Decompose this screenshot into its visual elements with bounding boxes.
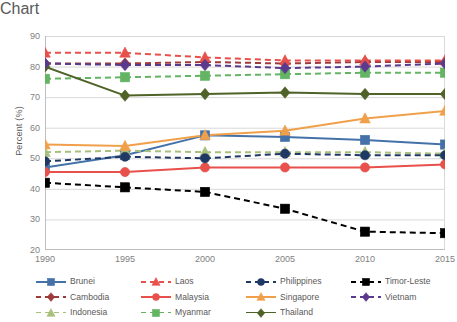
data-point-diamond bbox=[257, 308, 264, 317]
series-line-philippines bbox=[45, 154, 445, 162]
y-tick-label: 80 bbox=[16, 62, 40, 72]
data-point-diamond bbox=[362, 293, 369, 302]
legend-marker-triangle-icon bbox=[45, 307, 57, 319]
series-line-indonesia bbox=[45, 151, 445, 154]
legend-item-myanmar[interactable]: Myanmar bbox=[141, 305, 246, 320]
data-point-triangle bbox=[152, 278, 160, 286]
data-point-square bbox=[45, 178, 50, 187]
data-point-circle bbox=[280, 163, 289, 172]
y-tick-label: 30 bbox=[16, 214, 40, 224]
legend-key-malaysia bbox=[141, 290, 171, 303]
data-point-square bbox=[360, 227, 369, 236]
data-point-square bbox=[45, 74, 50, 83]
legend-label-singapore: Singapore bbox=[280, 293, 319, 302]
data-point-diamond bbox=[120, 59, 130, 71]
data-point-circle bbox=[280, 149, 289, 158]
x-axis-tick-labels: 199019952000200520102015 bbox=[45, 254, 445, 268]
series-line-laos bbox=[45, 53, 445, 61]
data-point-triangle bbox=[257, 293, 265, 301]
data-point-square bbox=[153, 309, 160, 316]
legend-label-malaysia: Malaysia bbox=[175, 293, 209, 302]
data-point-circle bbox=[120, 167, 129, 176]
legend-item-laos[interactable]: Laos bbox=[141, 274, 246, 289]
legend-item-singapore[interactable]: Singapore bbox=[246, 289, 351, 304]
x-tick-label: 1990 bbox=[25, 254, 65, 264]
data-point-square bbox=[48, 279, 55, 286]
legend-marker-triangle-icon bbox=[255, 291, 267, 303]
data-point-circle bbox=[360, 163, 369, 172]
legend-marker-square-icon bbox=[45, 276, 57, 288]
series-line-myanmar bbox=[45, 73, 445, 79]
series-line-timor-leste bbox=[45, 183, 445, 233]
legend-item-indonesia[interactable]: Indonesia bbox=[36, 305, 141, 320]
y-tick-label: 60 bbox=[16, 123, 40, 133]
legend-marker-circle-icon bbox=[255, 276, 267, 288]
legend-marker-diamond-icon bbox=[360, 291, 372, 303]
legend-label-brunei: Brunei bbox=[70, 277, 95, 286]
data-point-triangle bbox=[440, 105, 445, 115]
legend-label-philippines: Philippines bbox=[280, 277, 322, 286]
legend-item-malaysia[interactable]: Malaysia bbox=[141, 289, 246, 304]
data-point-square bbox=[120, 73, 129, 82]
legend-label-vietnam: Vietnam bbox=[385, 293, 416, 302]
data-point-square bbox=[440, 229, 445, 238]
legend-key-indonesia bbox=[36, 306, 66, 319]
legend-label-myanmar: Myanmar bbox=[175, 308, 211, 317]
x-tick-label: 2000 bbox=[185, 254, 225, 264]
chart-legend: BruneiLaosPhilippinesTimor-LesteCambodia… bbox=[36, 274, 450, 320]
series-line-malaysia bbox=[45, 164, 445, 172]
data-point-square bbox=[440, 140, 445, 149]
legend-marker-square-icon bbox=[360, 276, 372, 288]
legend-label-indonesia: Indonesia bbox=[70, 308, 107, 317]
legend-key-myanmar bbox=[141, 306, 171, 319]
legend-item-vietnam[interactable]: Vietnam bbox=[351, 289, 450, 304]
x-tick-label: 2005 bbox=[265, 254, 305, 264]
y-tick-label: 50 bbox=[16, 153, 40, 163]
data-point-square bbox=[363, 279, 370, 286]
legend-marker-diamond-icon bbox=[255, 307, 267, 319]
series-canvas bbox=[45, 36, 445, 250]
data-point-circle bbox=[440, 160, 445, 169]
data-point-circle bbox=[120, 152, 129, 161]
legend-key-philippines bbox=[246, 275, 276, 288]
legend-label-thailand: Thailand bbox=[280, 308, 313, 317]
y-axis-tick-labels: 2030405060708090 bbox=[14, 36, 40, 250]
legend-item-philippines[interactable]: Philippines bbox=[246, 274, 351, 289]
legend-label-cambodia: Cambodia bbox=[70, 293, 109, 302]
legend-key-cambodia bbox=[36, 290, 66, 303]
data-point-square bbox=[360, 135, 369, 144]
legend-marker-circle-icon bbox=[150, 291, 162, 303]
x-tick-label: 1995 bbox=[105, 254, 145, 264]
legend-marker-square-icon bbox=[150, 307, 162, 319]
series-line-thailand bbox=[45, 67, 445, 96]
y-tick-label: 40 bbox=[16, 184, 40, 194]
legend-item-cambodia[interactable]: Cambodia bbox=[36, 289, 141, 304]
data-point-diamond bbox=[280, 87, 290, 99]
chart-container: Percent (%) 2030405060708090 19901995200… bbox=[0, 18, 457, 322]
x-tick-label: 2015 bbox=[425, 254, 457, 264]
data-point-square bbox=[200, 71, 209, 80]
plot-area bbox=[45, 36, 445, 250]
series-line-cambodia bbox=[45, 62, 445, 64]
data-point-circle bbox=[153, 294, 160, 301]
legend-key-timor-leste bbox=[351, 275, 381, 288]
data-point-circle bbox=[200, 154, 209, 163]
y-tick-label: 90 bbox=[16, 31, 40, 41]
data-point-square bbox=[120, 183, 129, 192]
legend-marker-diamond-icon bbox=[45, 291, 57, 303]
legend-key-laos bbox=[141, 275, 171, 288]
legend-key-vietnam bbox=[351, 290, 381, 303]
data-point-square bbox=[280, 204, 289, 213]
legend-marker-triangle-icon bbox=[150, 276, 162, 288]
data-point-diamond bbox=[120, 90, 130, 102]
legend-key-singapore bbox=[246, 290, 276, 303]
data-point-triangle bbox=[47, 308, 55, 316]
legend-item-brunei[interactable]: Brunei bbox=[36, 274, 141, 289]
legend-item-timor-leste[interactable]: Timor-Leste bbox=[351, 274, 450, 289]
legend-key-brunei bbox=[36, 275, 66, 288]
legend-label-timor-leste: Timor-Leste bbox=[385, 277, 431, 286]
data-point-circle bbox=[200, 163, 209, 172]
data-point-diamond bbox=[47, 293, 54, 302]
legend-item-thailand[interactable]: Thailand bbox=[246, 305, 351, 320]
y-tick-label: 70 bbox=[16, 92, 40, 102]
